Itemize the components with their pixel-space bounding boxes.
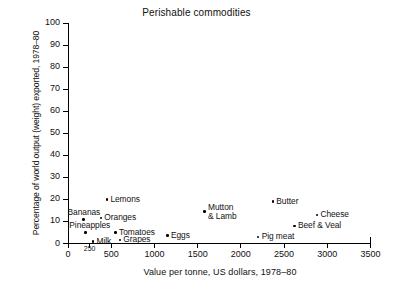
y-tick-label: 30	[30, 172, 60, 181]
data-point-lemons	[106, 198, 109, 201]
y-tick-30	[63, 177, 68, 178]
y-tick-20	[63, 199, 68, 200]
y-tick-100	[63, 23, 68, 24]
data-label-lemons: Lemons	[110, 195, 140, 204]
y-tick-60	[63, 111, 68, 112]
data-point-tomatoes	[114, 231, 117, 234]
x-tick-label: 500	[89, 250, 133, 259]
y-tick-label: 100	[30, 18, 60, 27]
y-tick-label: 80	[30, 62, 60, 71]
x-tick-label: 2000	[219, 250, 263, 259]
data-point-pig-meat	[257, 236, 260, 239]
scatter-chart: Perishable commodities Percentage of wor…	[0, 0, 393, 290]
y-tick-label: 0	[30, 239, 60, 248]
y-tick-label: 50	[30, 128, 60, 137]
x-tick-label: 2500	[262, 250, 306, 259]
x-tick-label: 1000	[132, 250, 176, 259]
y-tick-label: 90	[30, 40, 60, 49]
data-point-milk	[92, 240, 95, 243]
x-axis-title: Value per tonne, US dollars, 1978–80	[60, 267, 380, 277]
data-point-grapes	[119, 239, 122, 242]
data-label-pineapples: Pineapples	[69, 221, 110, 230]
data-label-mutton-lamb: Mutton & Lamb	[208, 203, 237, 222]
data-label-grapes: Grapes	[123, 235, 150, 244]
y-tick-90	[63, 45, 68, 46]
y-tick-label: 70	[30, 84, 60, 93]
y-tick-label: 60	[30, 106, 60, 115]
x-tick-1000	[154, 243, 155, 248]
data-point-eggs	[166, 234, 169, 237]
data-label-pig-meat: Pig meat	[262, 232, 295, 241]
y-tick-label: 40	[30, 150, 60, 159]
data-label-bananas: Bananas	[68, 208, 101, 217]
y-tick-label: 20	[30, 194, 60, 203]
data-point-butter	[272, 200, 275, 203]
x-tick-3000	[327, 243, 328, 248]
x-tick-label: 3000	[305, 250, 349, 259]
data-label-cheese: Cheese	[320, 210, 349, 219]
data-label-butter: Butter	[276, 197, 298, 206]
data-point-beef-veal	[293, 225, 296, 228]
data-point-pineapples	[84, 231, 87, 234]
data-label-beef-veal: Beef & Veal	[298, 221, 341, 230]
x-axis-line	[68, 243, 371, 244]
data-point-cheese	[316, 214, 319, 217]
y-tick-label: 10	[30, 216, 60, 225]
x-tick-3500	[370, 243, 371, 248]
x-tick-label: 1500	[176, 250, 220, 259]
y-tick-10	[63, 221, 68, 222]
y-tick-50	[63, 133, 68, 134]
data-label-eggs: Eggs	[171, 231, 190, 240]
x-tick-1500	[197, 243, 198, 248]
y-tick-40	[63, 155, 68, 156]
x-tick-2000	[240, 243, 241, 248]
data-point-mutton-lamb	[203, 210, 206, 213]
x-tick-2500	[284, 243, 285, 248]
data-label-oranges: Oranges	[104, 213, 136, 222]
data-label-milk: Milk	[97, 237, 112, 246]
y-tick-80	[63, 67, 68, 68]
data-point-oranges	[100, 217, 103, 220]
y-tick-70	[63, 89, 68, 90]
x-tick-label: 3500	[349, 250, 393, 259]
